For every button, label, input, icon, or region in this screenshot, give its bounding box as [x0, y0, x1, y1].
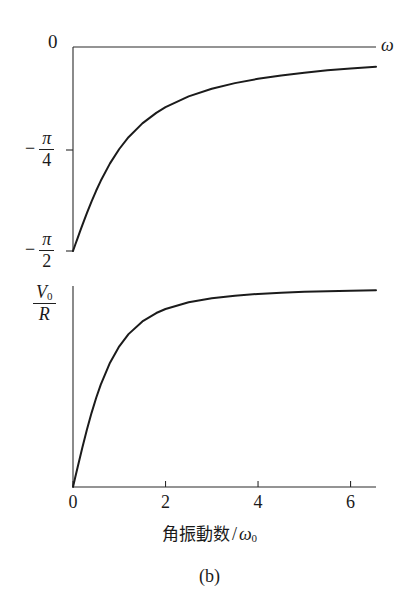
x-axis-tick-label: 0	[69, 492, 78, 513]
amplitude-curve	[73, 290, 376, 487]
top-panel-label-minus-pi-over-2: − π 2	[25, 230, 54, 270]
x-axis-tick-label: 6	[346, 492, 355, 513]
bottom-panel-label-v0-over-r: V0 R	[33, 283, 56, 324]
fraction-numerator-v0: V0	[33, 283, 56, 303]
fraction-denominator-pi2: 2	[39, 251, 54, 271]
x-axis-title-japanese: 角振動数	[162, 524, 230, 544]
fraction-numerator-pi4: π	[39, 129, 54, 149]
fraction-denominator-r: R	[36, 304, 53, 324]
top-panel-zero-label: 0	[48, 32, 58, 51]
x-axis-title-omega-subscript: 0	[252, 532, 258, 544]
phase-curve	[73, 67, 376, 251]
fraction-numerator-pi2: π	[39, 230, 54, 250]
fraction-v0-over-r: V0 R	[33, 283, 56, 324]
x-axis-title-slash: /	[230, 524, 239, 544]
figure-caption: (b)	[0, 566, 419, 587]
fraction-pi-over-2: π 2	[39, 230, 54, 270]
fraction-pi-over-4: π 4	[39, 129, 54, 169]
x-axis-tick-label: 2	[161, 492, 170, 513]
minus-sign-pi4: −	[25, 139, 35, 157]
fraction-denominator-pi4: 4	[39, 150, 54, 170]
omega-axis-label: ω	[381, 36, 394, 54]
x-axis-tick-label: 4	[254, 492, 263, 513]
top-panel-label-minus-pi-over-4: − π 4	[25, 129, 54, 169]
v0-subscript: 0	[47, 290, 53, 302]
x-axis-title: 角振動数/ω0	[0, 520, 419, 545]
x-axis-ticks	[73, 481, 351, 487]
minus-sign-pi2: −	[25, 240, 35, 258]
plot-svg	[0, 0, 419, 600]
v0-variable: V	[36, 282, 47, 302]
figure-container: 0 ω − π 4 − π 2 V0 R 0246 角振動数/ω0 (b)	[0, 0, 419, 600]
x-axis-title-omega: ω	[239, 524, 252, 544]
